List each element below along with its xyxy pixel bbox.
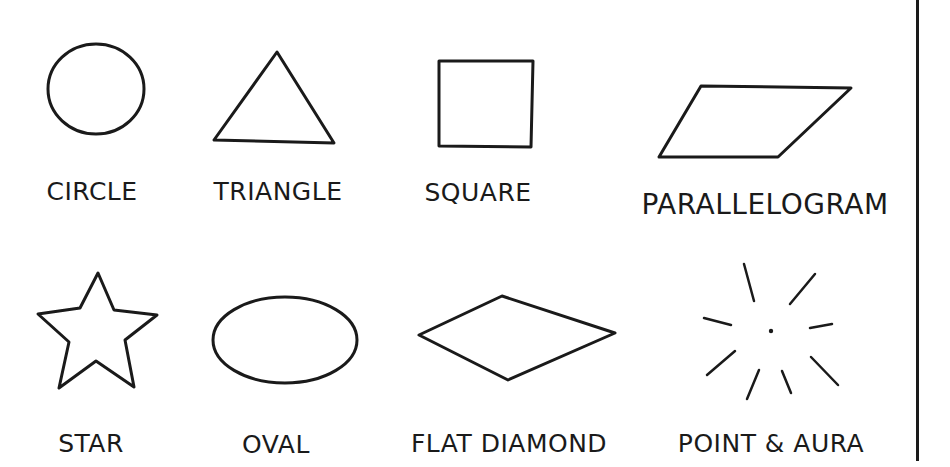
star-label: STAR <box>58 429 124 458</box>
point-aura-label: POINT & AURA <box>678 429 864 458</box>
flat-diamond-shape <box>419 296 615 380</box>
vertical-divider <box>916 0 919 461</box>
oval-shape <box>213 297 357 383</box>
circle-label: CIRCLE <box>46 177 137 206</box>
parallelogram-label: PARALLELOGRAM <box>641 188 888 221</box>
triangle-label: TRIANGLE <box>214 177 343 206</box>
shape-sheet: CIRCLE TRIANGLE SQUARE PARALLELOGRAM STA… <box>0 0 950 467</box>
star-shape <box>38 273 157 388</box>
square-label: SQUARE <box>424 178 531 207</box>
triangle-shape <box>214 52 334 143</box>
oval-label: OVAL <box>242 430 310 459</box>
flat-diamond-label: FLAT DIAMOND <box>411 429 607 458</box>
shapes-drawing <box>0 0 950 467</box>
point-aura-shape <box>704 264 838 399</box>
square-shape <box>439 61 533 147</box>
parallelogram-shape <box>659 86 851 157</box>
circle-shape <box>48 44 144 134</box>
